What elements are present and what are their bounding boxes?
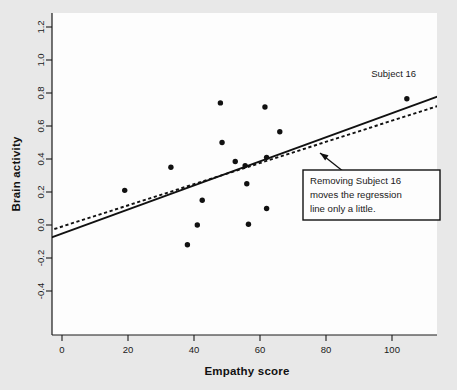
data-point <box>277 129 282 134</box>
y-axis-title: Brain activity <box>10 136 22 211</box>
x-tick-label: 0 <box>59 344 64 355</box>
data-point <box>264 155 269 160</box>
x-tick-label: 40 <box>189 344 200 355</box>
data-point <box>219 140 224 145</box>
data-point <box>195 222 200 227</box>
x-tick-label: 20 <box>123 344 134 355</box>
data-point <box>262 104 267 109</box>
y-tick-label: 0.8 <box>35 86 46 99</box>
y-tick-label: 1.2 <box>35 20 46 33</box>
y-tick-label: -0.2 <box>35 250 46 266</box>
callout-box: Removing Subject 16 moves the regression… <box>303 170 440 220</box>
y-tick-label: 0.0 <box>35 218 46 231</box>
data-point <box>218 100 223 105</box>
callout-line: Removing Subject 16 <box>310 175 401 186</box>
x-axis-title: Empathy score <box>204 365 289 377</box>
data-point <box>168 165 173 170</box>
callout-line: moves the regression <box>310 189 402 200</box>
y-tick-label: 0.2 <box>35 185 46 198</box>
y-tick-label: 0.6 <box>35 119 46 132</box>
data-point <box>122 188 127 193</box>
data-point <box>246 221 251 226</box>
scatter-plot: -0.4 -0.2 0.0 0.2 0.4 0.6 0.8 1.0 1.2 Br… <box>0 0 457 390</box>
data-point <box>242 163 247 168</box>
data-point <box>233 159 238 164</box>
subject-16-label: Subject 16 <box>371 68 416 79</box>
x-tick-label: 80 <box>321 344 332 355</box>
data-point <box>264 206 269 211</box>
y-tick-label: 1.0 <box>35 53 46 66</box>
x-tick-label: 100 <box>384 344 400 355</box>
y-tick-label: -0.4 <box>35 283 46 299</box>
data-point <box>185 242 190 247</box>
data-point <box>404 96 409 101</box>
y-tick-label: 0.4 <box>35 152 46 165</box>
data-point <box>244 181 249 186</box>
x-tick-label: 60 <box>255 344 266 355</box>
figure-container: -0.4 -0.2 0.0 0.2 0.4 0.6 0.8 1.0 1.2 Br… <box>0 0 457 390</box>
callout-line: line only a little. <box>310 203 376 214</box>
data-point <box>200 198 205 203</box>
y-axis-tick-labels: -0.4 -0.2 0.0 0.2 0.4 0.6 0.8 1.0 1.2 <box>35 20 46 299</box>
